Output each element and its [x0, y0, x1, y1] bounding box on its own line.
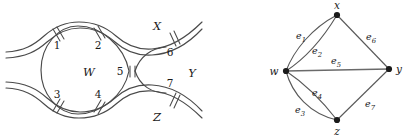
graph-vertex-x	[334, 12, 340, 18]
crossing-label-3: 3	[54, 88, 61, 100]
region-label-x: X	[152, 19, 162, 33]
graph-vertex-label-w: w	[270, 65, 279, 77]
edge-label-subscript: 6	[372, 37, 377, 45]
crossing-label-4: 4	[95, 88, 102, 100]
knot-projection: 1 2 3 4 5 6 7 W X Y Z	[6, 19, 202, 124]
graph-edge-label-e5: e5	[331, 55, 341, 69]
graph-edge-label-e7: e7	[365, 98, 376, 112]
edge-label-subscript: 7	[371, 104, 376, 112]
edge-label-subscript: 4	[317, 93, 322, 101]
graph-vertex-label-y: y	[395, 63, 403, 75]
loop-y-left	[135, 47, 166, 71]
graph-edge-e7	[337, 69, 389, 120]
figure-svg: 1 2 3 4 5 6 7 W X Y Z	[0, 0, 408, 139]
graph-edge-label-e3: e3	[295, 104, 305, 118]
graph-edge-e6	[337, 15, 389, 69]
region-label-z: Z	[152, 110, 162, 124]
graph-vertex-y	[386, 66, 392, 72]
graph-vertex-z	[334, 117, 340, 123]
crossing-label-6: 6	[167, 46, 174, 58]
crossing-label-7: 7	[167, 77, 174, 89]
edge-label-subscript: 2	[317, 51, 322, 59]
loop-y-left-lower	[135, 71, 166, 93]
crossing-label-5: 5	[117, 65, 124, 77]
crossing-tick-5	[130, 66, 135, 77]
figure-canvas: 1 2 3 4 5 6 7 W X Y Z	[0, 0, 408, 139]
crossing-label-2: 2	[95, 39, 102, 51]
graph-vertex-w	[283, 68, 289, 74]
region-label-y: Y	[188, 66, 197, 80]
graph-vertex-label-z: z	[333, 125, 340, 137]
edge-label-subscript: 3	[301, 110, 305, 118]
crossing-label-1: 1	[54, 39, 61, 51]
graph-edge-label-e1: e1	[296, 30, 306, 44]
associated-graph: x w y z e1 e2 e3 e4 e5 e6 e	[270, 0, 404, 137]
crossing-tick-2	[94, 26, 105, 40]
graph-edge-e1	[286, 15, 337, 71]
graph-edge-e2	[286, 15, 337, 71]
crossing-tick-7	[170, 93, 180, 108]
edge-label-subscript: 1	[302, 36, 306, 44]
graph-vertex-label-x: x	[334, 0, 340, 11]
edge-label-subscript: 5	[337, 61, 341, 69]
graph-edge-label-e4: e4	[312, 87, 322, 101]
graph-edge-e5	[286, 69, 389, 71]
graph-edge-label-e6: e6	[366, 31, 377, 45]
region-label-w: W	[83, 65, 96, 79]
graph-edge-label-e2: e2	[312, 45, 322, 59]
